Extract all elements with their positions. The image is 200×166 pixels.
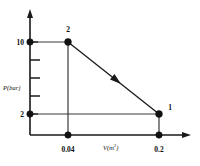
state-label-2: 2: [66, 25, 70, 34]
pv-diagram-figure: 10 2 0.04 0.2 2 1 P(bar) V(m3): [0, 0, 200, 166]
y-axis-arrow-icon: [27, 9, 33, 18]
point-vaxis-004: [65, 132, 71, 138]
construction-lines-group: [30, 42, 159, 135]
y-axis-ticks: [30, 42, 40, 114]
process-line-group: [68, 42, 159, 114]
point-vaxis-02: [156, 132, 162, 138]
x-tick-label-004: 0.04: [61, 145, 74, 154]
pv-diagram-canvas: 10 2 0.04 0.2 2 1 P(bar) V(m3): [0, 0, 200, 166]
x-axis-label-paren: ): [115, 144, 118, 152]
axes-group: [27, 9, 191, 138]
x-axis-arrow-icon: [182, 132, 191, 138]
point-paxis-10: [27, 39, 33, 45]
data-points-group: [27, 39, 163, 139]
x-tick-label-02: 0.2: [154, 145, 164, 154]
point-state-1: [156, 111, 163, 118]
x-axis-label-main: V(m: [103, 144, 114, 152]
state-label-1: 1: [168, 103, 172, 112]
y-axis-label: P(bar): [2, 84, 20, 92]
process-direction-arrow-icon: [110, 74, 121, 84]
y-tick-label-2: 2: [20, 110, 24, 119]
point-state-2: [65, 39, 72, 46]
point-paxis-2: [27, 111, 33, 117]
y-tick-label-10: 10: [17, 38, 25, 47]
state-labels-group: 2 1: [66, 25, 172, 112]
x-axis-label: V(m3): [103, 143, 118, 152]
